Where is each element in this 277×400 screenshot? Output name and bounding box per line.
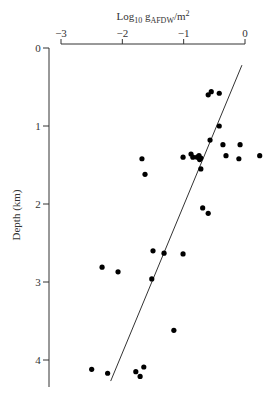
data-points — [89, 89, 262, 379]
regression-line — [111, 65, 242, 381]
y-tick-label: 2 — [35, 198, 41, 210]
data-point — [220, 142, 225, 147]
data-point — [207, 137, 212, 142]
data-point — [89, 367, 94, 372]
data-point — [180, 155, 185, 160]
y-axis-title: Depth (km) — [10, 189, 23, 240]
data-point — [139, 156, 144, 161]
y-tick-label: 4 — [35, 354, 41, 366]
data-point — [99, 265, 104, 270]
x-tick-label: −2 — [116, 27, 128, 39]
y-tick-label: 0 — [35, 42, 41, 54]
scatter-chart: Log10 gAFDW/m2 −3−2−10 01234 Depth (km) — [0, 0, 277, 400]
data-point — [180, 251, 185, 256]
data-point — [149, 276, 154, 281]
data-point — [206, 211, 211, 216]
y-tick-label: 1 — [35, 120, 41, 132]
data-point — [200, 205, 205, 210]
x-tick-label: −3 — [55, 27, 67, 39]
x-axis: −3−2−10 — [55, 27, 248, 44]
x-axis-title: Log10 gAFDW/m2 — [116, 9, 189, 25]
y-tick-label: 3 — [35, 276, 41, 288]
data-point — [141, 364, 146, 369]
data-point — [257, 153, 262, 158]
x-tick-label: −1 — [178, 27, 190, 39]
data-point — [171, 328, 176, 333]
data-point — [223, 153, 228, 158]
data-point — [138, 374, 143, 379]
data-point — [161, 251, 166, 256]
y-axis: 01234 — [35, 42, 49, 387]
data-point — [115, 269, 120, 274]
data-point — [197, 157, 202, 162]
x-tick-label: 0 — [242, 27, 248, 39]
data-point — [217, 91, 222, 96]
data-point — [217, 123, 222, 128]
data-point — [142, 172, 147, 177]
data-point — [236, 156, 241, 161]
data-point — [105, 371, 110, 376]
data-point — [133, 369, 138, 374]
data-point — [150, 248, 155, 253]
data-point — [198, 166, 203, 171]
data-point — [237, 142, 242, 147]
data-point — [209, 89, 214, 94]
